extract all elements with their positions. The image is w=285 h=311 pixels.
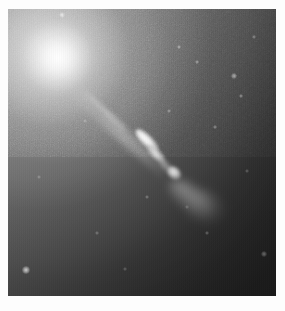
point-source xyxy=(213,125,217,129)
coarse-grain-overlay xyxy=(8,9,276,157)
point-source xyxy=(245,169,249,173)
point-source xyxy=(59,12,65,18)
film-grain-overlay xyxy=(8,9,276,157)
point-source xyxy=(185,205,189,209)
point-source xyxy=(123,267,127,271)
point-source xyxy=(205,231,209,235)
vignette-overlay xyxy=(8,9,276,296)
point-source xyxy=(22,266,30,274)
jet-diffuse-lobe xyxy=(178,183,231,233)
point-source xyxy=(261,251,267,257)
astronomical-image xyxy=(8,9,276,296)
jet-layer xyxy=(8,9,276,296)
point-source xyxy=(167,109,171,113)
jet-sheath xyxy=(68,85,173,182)
point-source xyxy=(252,35,256,39)
scan-striping-overlay xyxy=(8,9,276,296)
jet-inner-streak xyxy=(78,86,127,132)
point-source xyxy=(231,73,237,79)
point-source xyxy=(95,231,99,235)
point-source xyxy=(145,195,149,199)
point-source xyxy=(37,175,41,179)
point-source xyxy=(177,45,181,49)
jet-knot-b xyxy=(164,163,184,182)
point-source xyxy=(239,94,243,98)
jet-knot-a xyxy=(132,126,161,155)
point-source xyxy=(83,119,87,123)
jet-terminal-lobe xyxy=(162,172,221,226)
point-source xyxy=(195,60,199,64)
jet-knot-bridge xyxy=(156,156,174,174)
jet-knot-a2 xyxy=(144,142,168,166)
image-page xyxy=(0,0,285,311)
